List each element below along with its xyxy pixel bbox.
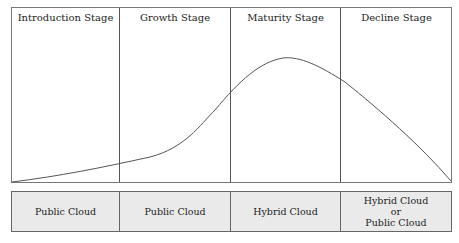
cloud-type-decline: Hybrid Cloud or Public Cloud [341,192,451,231]
cloud-type-row: Public Cloud Public Cloud Hybrid Cloud H… [11,191,452,232]
cloud-type-growth: Public Cloud [120,192,231,231]
cloud-type-introduction: Public Cloud [12,192,120,231]
cloud-type-maturity: Hybrid Cloud [231,192,341,231]
